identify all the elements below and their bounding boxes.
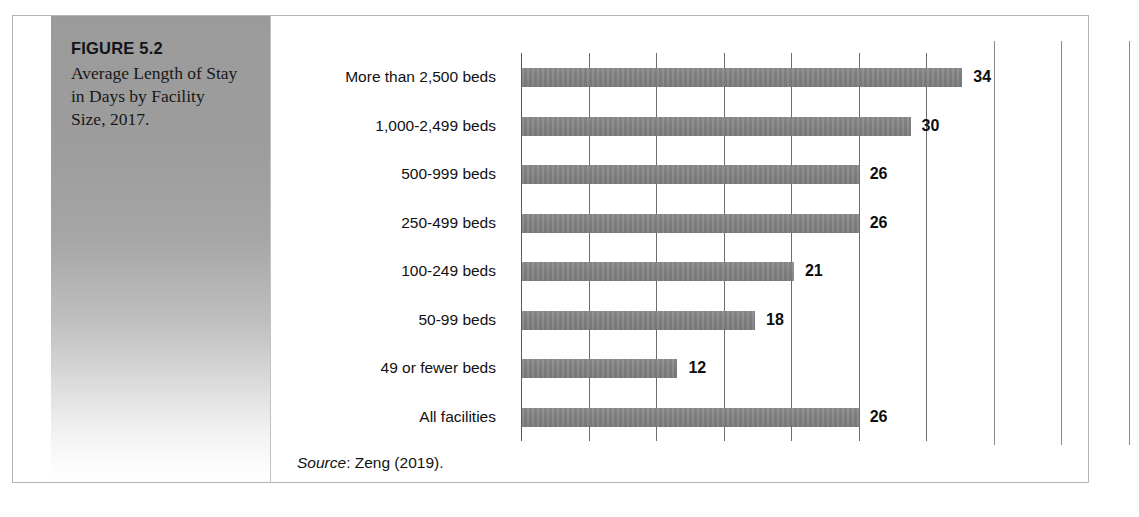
chart-gridline	[1129, 41, 1130, 445]
figure-frame: FIGURE 5.2 Average Length of Stay in Day…	[12, 15, 1089, 483]
chart-bar	[522, 165, 859, 184]
chart-bar	[522, 117, 911, 136]
chart-category-axis: More than 2,500 beds1,000-2,499 beds500-…	[271, 53, 506, 441]
source-label: Source	[297, 454, 346, 471]
chart-plot-area: More than 2,500 beds1,000-2,499 beds500-…	[271, 16, 1088, 482]
chart-gridline	[724, 53, 725, 441]
chart-gridline	[656, 53, 657, 441]
figure-caption-text: Average Length of Stay in Days by Facili…	[71, 62, 243, 131]
chart-bar-value-label: 34	[973, 67, 991, 87]
chart-gridline	[791, 53, 792, 441]
chart-category-label: 100-249 beds	[401, 262, 496, 280]
chart-bar-value-label: 30	[922, 116, 940, 136]
chart-category-label: More than 2,500 beds	[345, 68, 496, 86]
chart-bar-value-label: 12	[688, 358, 706, 378]
chart-gridline	[1061, 41, 1062, 445]
chart-canvas: 3430262621181226	[521, 53, 1101, 441]
chart-bar	[522, 359, 677, 378]
source-note: Source: Zeng (2019).	[297, 454, 443, 472]
chart-bar-value-label: 26	[870, 164, 888, 184]
chart-bar	[522, 68, 962, 87]
chart-category-label: 50-99 beds	[418, 311, 496, 329]
chart-category-label: 1,000-2,499 beds	[375, 117, 496, 135]
chart-value-axis	[521, 53, 522, 441]
chart-category-label: All facilities	[419, 408, 496, 426]
chart-bar	[522, 408, 859, 427]
chart-gridline	[589, 53, 590, 441]
chart-category-label: 500-999 beds	[401, 165, 496, 183]
source-text: : Zeng (2019).	[346, 454, 443, 471]
chart-bar-value-label: 21	[805, 261, 823, 281]
chart-bar-value-label: 26	[870, 213, 888, 233]
chart-bar	[522, 262, 794, 281]
chart-category-label: 49 or fewer beds	[381, 359, 496, 377]
chart-bar	[522, 311, 755, 330]
chart-gridline	[859, 53, 860, 441]
figure-number-label: FIGURE 5.2	[71, 38, 254, 59]
chart-category-label: 250-499 beds	[401, 214, 496, 232]
chart-bar-value-label: 18	[766, 310, 784, 330]
chart-bar	[522, 214, 859, 233]
chart-gridline	[994, 41, 995, 445]
chart-gridline	[926, 53, 927, 441]
figure-caption-panel: FIGURE 5.2 Average Length of Stay in Day…	[51, 16, 270, 482]
chart-bar-value-label: 26	[870, 407, 888, 427]
